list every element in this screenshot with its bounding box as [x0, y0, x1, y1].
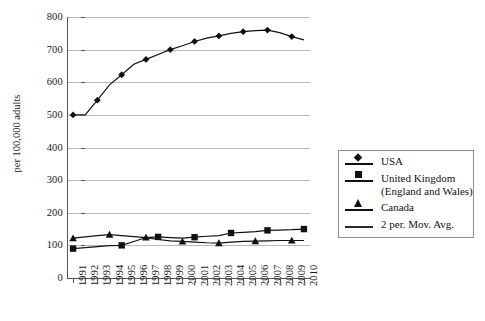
legend-item[interactable]: USA [339, 157, 473, 171]
y-tick-mark [81, 213, 85, 214]
y-tick-mark [81, 17, 85, 18]
x-tick-mark [207, 278, 208, 283]
data-point-marker [264, 227, 270, 233]
data-point-marker [70, 245, 76, 251]
legend-triangle-marker-icon [354, 199, 362, 207]
x-tick-mark [268, 278, 269, 283]
data-point-marker [191, 38, 198, 45]
x-tick-mark [73, 278, 74, 283]
y-tick-label: 100 [23, 240, 63, 250]
legend-square-marker-icon [355, 171, 362, 178]
y-tick-label: 0 [23, 273, 63, 283]
legend-label: United Kingdom (England and Wales) [381, 172, 473, 198]
plot-area [67, 17, 310, 278]
y-axis-line [67, 17, 68, 279]
x-tick-label: 2004 [235, 265, 246, 286]
x-tick-label: 2008 [284, 265, 295, 286]
y-tick-mark [81, 82, 85, 83]
data-point-marker [228, 230, 234, 236]
data-point-marker [215, 33, 222, 40]
x-tick-label: 1998 [162, 265, 173, 286]
legend-item[interactable]: Canada [339, 203, 473, 217]
y-tick-mark [81, 115, 85, 116]
x-tick-label: 2002 [211, 265, 222, 286]
legend-line-swatch [345, 163, 373, 165]
y-tick-label: 500 [23, 110, 63, 120]
x-tick-mark [219, 278, 220, 283]
y-tick-label: 600 [23, 77, 63, 87]
legend-label: 2 per. Mov. Avg. [381, 218, 454, 231]
data-point-marker [288, 33, 295, 40]
x-tick-label: 1992 [89, 265, 100, 286]
x-tick-label: 2010 [308, 265, 319, 286]
y-axis-ticks: 0100200300400500600700800 [18, 17, 63, 278]
x-tick-mark [280, 278, 281, 283]
y-tick-mark [81, 148, 85, 149]
legend-diamond-marker-icon [354, 153, 362, 161]
x-tick-label: 1994 [114, 265, 125, 286]
legend-line-swatch [345, 209, 373, 211]
x-tick-label: 2000 [186, 265, 197, 286]
x-tick-mark [243, 278, 244, 283]
x-tick-mark [110, 278, 111, 283]
x-tick-label: 2009 [296, 265, 307, 286]
x-tick-label: 1993 [101, 265, 112, 286]
legend-line-swatch [345, 180, 373, 182]
y-tick-label: 200 [23, 208, 63, 218]
y-tick-label: 300 [23, 175, 63, 185]
x-tick-mark [231, 278, 232, 283]
x-tick-mark [85, 278, 86, 283]
x-tick-mark [134, 278, 135, 283]
legend-line-swatch [345, 226, 373, 228]
y-tick-mark [81, 180, 85, 181]
series-layer [67, 17, 310, 278]
chart-legend: USAUnited Kingdom (England and Wales)Can… [338, 150, 474, 238]
legend-item[interactable]: 2 per. Mov. Avg. [339, 220, 473, 234]
data-point-marker [70, 111, 77, 118]
x-tick-label: 2007 [272, 265, 283, 286]
x-tick-label: 2001 [199, 265, 210, 286]
data-point-marker [167, 46, 174, 53]
x-tick-label: 2003 [223, 265, 234, 286]
x-tick-mark [292, 278, 293, 283]
y-axis-title: per 100,000 adults [11, 39, 22, 229]
x-tick-label: 2006 [259, 265, 270, 286]
x-tick-label: 1996 [138, 265, 149, 286]
x-tick-mark [122, 278, 123, 283]
x-tick-label: 2005 [247, 265, 258, 286]
legend-label: USA [381, 155, 403, 168]
x-tick-label: 1991 [77, 265, 88, 286]
data-point-marker [240, 28, 247, 35]
y-tick-mark [81, 245, 85, 246]
data-point-marker [143, 56, 150, 63]
x-tick-mark [304, 278, 305, 283]
x-tick-label: 1995 [126, 265, 137, 286]
data-point-marker [118, 242, 124, 248]
series-line [73, 30, 304, 115]
x-tick-mark [182, 278, 183, 283]
legend-label: Canada [381, 201, 414, 214]
y-tick-label: 400 [23, 143, 63, 153]
x-tick-mark [195, 278, 196, 283]
x-tick-label: 1999 [174, 265, 185, 286]
chart-figure: 0100200300400500600700800 per 100,000 ad… [0, 0, 485, 321]
y-tick-label: 700 [23, 45, 63, 55]
x-tick-mark [158, 278, 159, 283]
y-tick-label: 800 [23, 12, 63, 22]
legend-item[interactable]: United Kingdom (England and Wales) [339, 174, 473, 200]
y-tick-mark [81, 50, 85, 51]
data-point-marker [301, 226, 307, 232]
data-point-marker [264, 27, 271, 34]
x-tick-mark [170, 278, 171, 283]
x-tick-mark [97, 278, 98, 283]
x-tick-mark [146, 278, 147, 283]
data-point-marker [191, 234, 197, 240]
x-tick-mark [255, 278, 256, 283]
x-tick-label: 1997 [150, 265, 161, 286]
